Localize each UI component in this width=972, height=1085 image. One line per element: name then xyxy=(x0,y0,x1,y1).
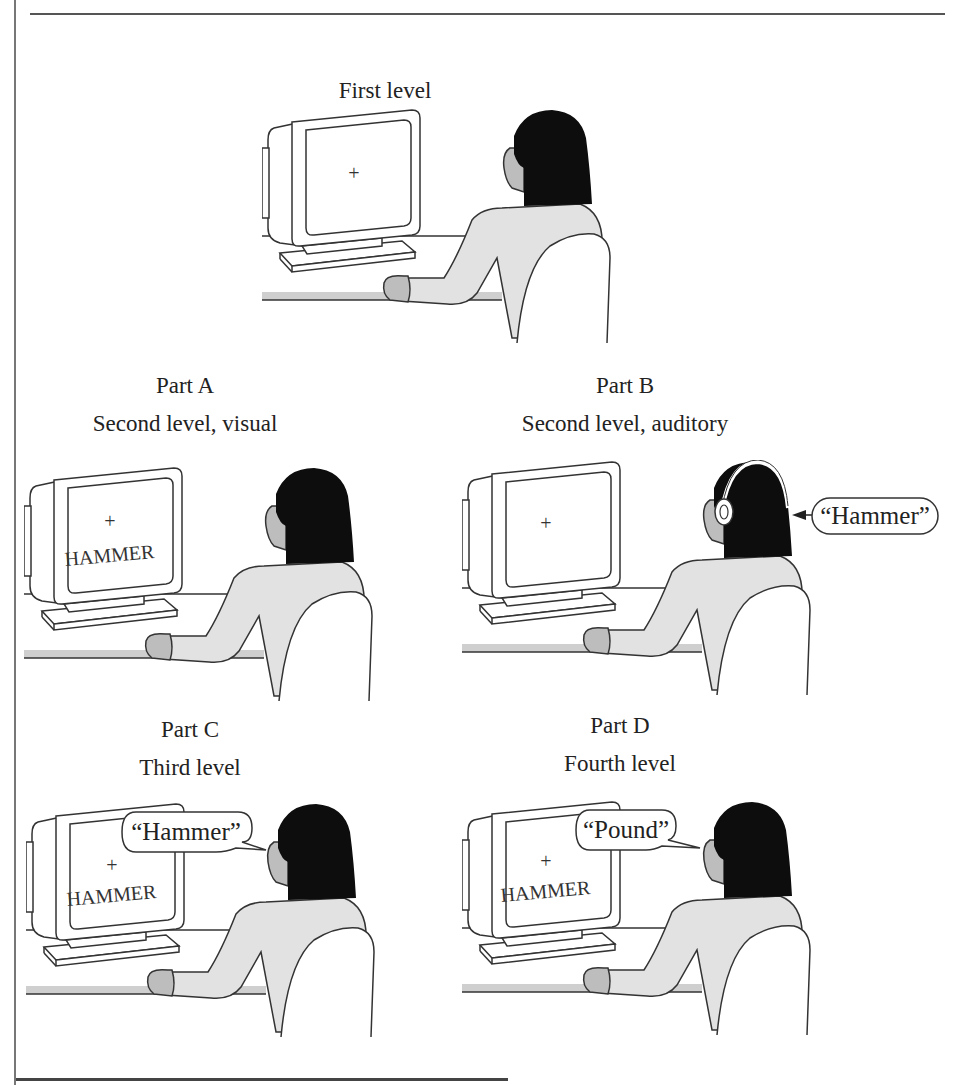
audio-arrow-icon xyxy=(792,510,812,520)
caption-part-c-subtitle: Third level xyxy=(95,750,285,786)
caption-part-a-title: Part A xyxy=(100,368,270,404)
scene-part-b: + “Hammer” xyxy=(462,460,972,700)
fixation-cross: + xyxy=(106,854,117,876)
scene-part-c: + HAMMER “Hammer” xyxy=(26,802,396,1042)
panel-first-level: First level + xyxy=(0,0,972,340)
caption-part-a-subtitle: Second level, visual xyxy=(60,406,310,442)
caption-part-d-title: Part D xyxy=(535,708,705,744)
scene-part-d: + HAMMER “Pound” xyxy=(462,800,832,1040)
fixation-cross: + xyxy=(540,850,551,872)
panel-part-d: Part D Fourth level + HAMMER “Pound” xyxy=(450,690,890,1020)
caption-part-b-subtitle: Second level, auditory xyxy=(490,406,760,442)
fixation-cross: + xyxy=(104,510,115,532)
scene-part-a: + HAMMER xyxy=(24,466,394,706)
speech-bubble-text: “Hammer” xyxy=(131,818,241,845)
caption-part-d-subtitle: Fourth level xyxy=(525,746,715,782)
fixation-cross: + xyxy=(540,512,551,534)
speech-bubble-text: “Pound” xyxy=(583,816,669,843)
panel-part-a: Part A Second level, visual + HAMMER xyxy=(0,360,440,680)
caption-first-level: First level xyxy=(310,73,460,109)
panel-part-b: Part B Second level, auditory + “Hammer” xyxy=(450,360,972,680)
panel-part-c: Part C Third level + HAMMER “Hammer” xyxy=(0,690,440,1020)
caption-part-c-title: Part C xyxy=(105,712,275,748)
audio-input-label: “Hammer” xyxy=(820,502,930,529)
caption-part-b-title: Part B xyxy=(540,368,710,404)
scene-first-level: + xyxy=(262,108,632,348)
bottom-border-rule xyxy=(16,1078,508,1081)
fixation-cross: + xyxy=(348,162,359,184)
